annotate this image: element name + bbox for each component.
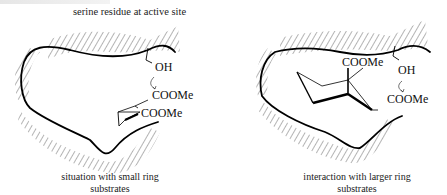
serine-residue-label: serine residue at active site — [73, 6, 186, 17]
diagram-drawing — [0, 0, 447, 195]
left-caption-line1: situation with small ring — [40, 171, 180, 183]
right-caption-line2: substrates — [282, 183, 432, 195]
left-oh-group: OH — [155, 60, 172, 75]
enzyme-active-site-diagram: serine residue at active site OH COOMe C… — [0, 0, 447, 195]
cyclohexane-chair — [297, 68, 378, 110]
left-coome-group-1: COOMe — [152, 88, 193, 103]
right-coome-equatorial: COOMe — [387, 92, 428, 107]
right-oh-group: OH — [398, 63, 415, 78]
right-caption: interaction with larger ring substrates — [282, 171, 432, 195]
left-caption-line2: substrates — [40, 183, 180, 195]
left-coome-group-2: COOMe — [141, 106, 182, 121]
right-coome-axial: COOMe — [342, 55, 383, 70]
left-caption: situation with small ring substrates — [40, 171, 180, 195]
right-caption-line1: interaction with larger ring — [282, 171, 432, 183]
